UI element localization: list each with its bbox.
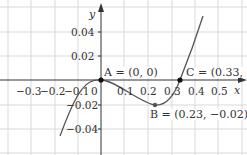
x-tick-0.5: 0.5 — [211, 86, 228, 97]
x-tick-0.2: 0.2 — [140, 86, 157, 97]
y-tick-neg-0.04: −0.04 — [66, 124, 98, 135]
y-tick-neg-0.02: −0.02 — [66, 100, 98, 111]
x-tick-neg-0.1: −0.1 — [64, 86, 90, 97]
y-tick-0.02: 0.02 — [71, 51, 94, 62]
point-c-marker — [177, 77, 182, 82]
chart: y x 0.04 0.02 −0.02 −0.04 −0.3 −0.2 −0.1… — [0, 0, 247, 155]
x-tick-0.3: 0.3 — [164, 86, 181, 97]
y-axis-label: y — [89, 9, 95, 20]
x-tick-neg-0.3: −0.3 — [16, 86, 42, 97]
axes — [0, 8, 242, 155]
x-tick-0.1: 0.1 — [117, 86, 134, 97]
point-a-marker — [98, 77, 103, 82]
point-b-label: B = (0.23, −0.02) — [150, 109, 247, 120]
x-tick-neg-0.2: −0.2 — [40, 86, 66, 97]
point-a-label: A = (0, 0) — [104, 67, 158, 78]
x-axis-label: x — [234, 85, 240, 96]
x-tick-0.4: 0.4 — [188, 86, 205, 97]
point-c-label: C = (0.33, 0) — [186, 67, 247, 78]
y-tick-0.04: 0.04 — [71, 27, 94, 38]
x-tick-0: 0 — [91, 86, 98, 97]
point-b-marker — [153, 103, 157, 107]
